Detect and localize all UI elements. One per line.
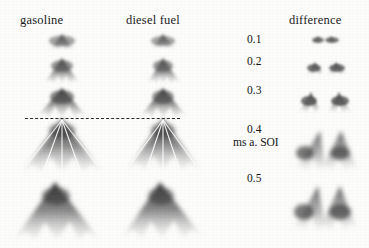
time-label-0.4: 0.4: [247, 123, 261, 135]
time-label-0.2: 0.2: [247, 55, 261, 67]
spray-frame-diesel-0.1: [151, 34, 175, 49]
spray-frame-gasoline-0.2: [44, 58, 80, 84]
diff-frame-0.5: [292, 186, 358, 232]
diff-frame-0.2: [306, 62, 348, 76]
spray-comparison-figure: gasoline diesel fuel difference 0.1 0.2 …: [0, 0, 369, 248]
spray-frame-diesel-0.2: [147, 58, 181, 84]
time-axis-unit-label: ms a. SOI: [233, 136, 279, 148]
diff-frame-0.4: [294, 131, 358, 172]
nozzle-plane-reference-line: [25, 118, 180, 119]
spray-frame-diesel-0.3: [139, 88, 188, 118]
column-header-gasoline: gasoline: [20, 13, 63, 28]
spray-frame-gasoline-0.3: [36, 88, 88, 118]
spray-frame-diesel-0.5: [122, 182, 203, 238]
spray-frame-gasoline-0.1: [49, 34, 75, 50]
column-header-difference: difference: [289, 13, 341, 28]
time-label-0.5: 0.5: [247, 172, 261, 184]
time-label-0.1: 0.1: [247, 33, 261, 45]
diff-frame-0.1: [311, 36, 339, 45]
spray-image-layer: [0, 0, 369, 248]
time-label-0.3: 0.3: [247, 84, 261, 96]
diff-frame-0.3: [298, 92, 352, 114]
spray-frame-gasoline-0.5: [14, 182, 100, 240]
column-header-diesel: diesel fuel: [126, 13, 180, 28]
